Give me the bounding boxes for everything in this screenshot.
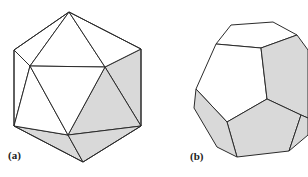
panel-label-a: (a) (8, 149, 21, 161)
dodecahedron-drawing (194, 22, 308, 157)
polyhedra-figure (0, 0, 308, 177)
icosahedron-drawing (14, 12, 141, 162)
panel-label-b: (b) (190, 150, 203, 162)
